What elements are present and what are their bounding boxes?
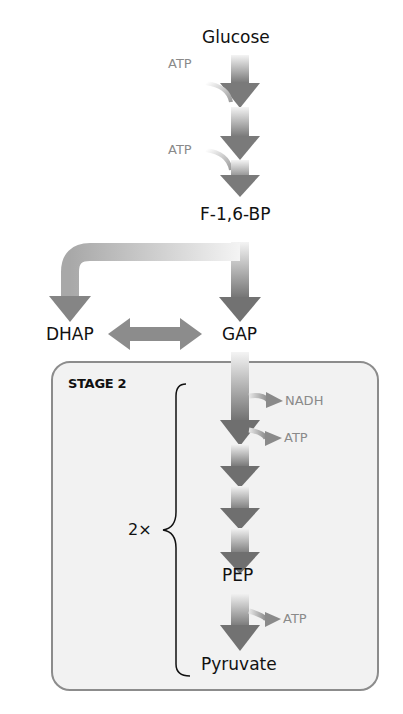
label-nadh-output: NADH: [285, 393, 323, 408]
glycolysis-diagram: [0, 0, 403, 714]
arrow-glucose-step1: [220, 55, 260, 108]
label-gap: GAP: [222, 324, 257, 344]
label-atp-input-1: ATP: [168, 56, 192, 71]
label-multiplier: 2×: [128, 520, 152, 539]
stage2-title: STAGE 2: [68, 376, 126, 391]
stage2-box: [52, 362, 378, 690]
arrow-f16bp-to-dhap: [49, 252, 240, 322]
label-atp-input-2: ATP: [168, 142, 192, 157]
label-atp-output-2: ATP: [283, 611, 307, 626]
label-f16bp: F-1,6-BP: [200, 204, 270, 224]
arrow-dhap-gap-equilibrium: [108, 318, 202, 350]
arrow-glucose-step3: [220, 160, 260, 197]
label-glucose: Glucose: [202, 27, 270, 47]
label-atp-output-1: ATP: [284, 430, 308, 445]
label-pep: PEP: [222, 565, 253, 585]
atp-input-curve-2: [206, 150, 231, 170]
label-dhap: DHAP: [46, 324, 94, 344]
arrow-glucose-step2: [220, 107, 260, 160]
label-pyruvate: Pyruvate: [201, 654, 277, 674]
